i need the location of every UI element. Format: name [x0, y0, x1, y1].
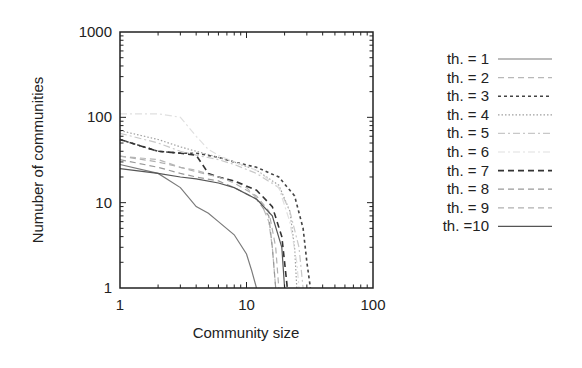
series-line-5 — [120, 133, 303, 288]
plot-frame — [120, 32, 373, 288]
y-tick-label: 1000 — [79, 23, 112, 40]
series-line-9 — [120, 156, 279, 288]
chart-canvas: 1101001101001000 Community size Numuber … — [0, 0, 582, 368]
series-line-6 — [120, 114, 299, 288]
series-line-2 — [120, 156, 276, 288]
x-axis-title: Community size — [193, 324, 300, 341]
series-line-10 — [120, 169, 285, 288]
y-tick-label: 10 — [95, 194, 112, 211]
x-tick-label: 10 — [238, 296, 255, 313]
legend-label-3: th. = 3 — [447, 87, 489, 104]
legend-label-5: th. = 5 — [447, 124, 489, 141]
legend-label-8: th. = 8 — [447, 180, 489, 197]
legend-label-10: th. =10 — [443, 217, 489, 234]
x-tick-label: 100 — [360, 296, 385, 313]
tick-labels: 1101001101001000 — [79, 23, 386, 313]
y-axis-title: Numuber of communities — [29, 77, 46, 244]
series-line-1 — [120, 165, 257, 289]
y-tick-label: 100 — [87, 108, 112, 125]
series-line-7 — [120, 140, 287, 289]
legend-label-4: th. = 4 — [447, 106, 489, 123]
series-line-3 — [120, 140, 310, 289]
legend-label-2: th. = 2 — [447, 69, 489, 86]
legend-label-6: th. = 6 — [447, 143, 489, 160]
axes — [120, 32, 373, 288]
x-tick-label: 1 — [116, 296, 124, 313]
plot-area — [120, 114, 310, 288]
series-line-4 — [120, 131, 297, 288]
legend-label-9: th. = 9 — [447, 199, 489, 216]
legend: th. = 1th. = 2th. = 3th. = 4th. = 5th. =… — [443, 50, 552, 234]
legend-label-7: th. = 7 — [447, 162, 489, 179]
y-tick-label: 1 — [104, 279, 112, 296]
legend-label-1: th. = 1 — [447, 50, 489, 67]
